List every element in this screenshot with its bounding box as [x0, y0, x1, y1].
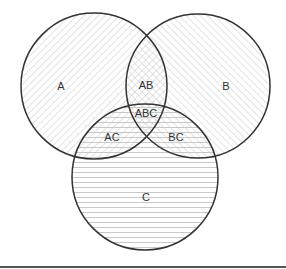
label-bc: BC	[168, 131, 183, 143]
label-abc: ABC	[135, 107, 158, 119]
label-c: C	[142, 191, 150, 203]
venn-diagram: A B C AB ABC AC BC	[0, 0, 286, 269]
label-ac: AC	[104, 131, 119, 143]
label-ab: AB	[139, 79, 154, 91]
label-b: B	[222, 80, 229, 92]
label-a: A	[57, 80, 65, 92]
bottom-divider	[0, 266, 286, 268]
